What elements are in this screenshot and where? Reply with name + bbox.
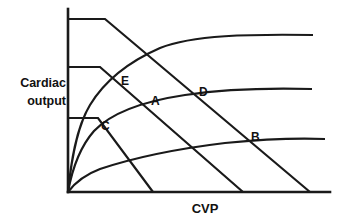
point-label-B: B — [251, 130, 260, 144]
cardiac-output-cvp-plot: E A D C B CVP — [0, 0, 346, 221]
point-label-C: C — [101, 119, 110, 133]
figure-canvas: Cardiac output E A D C B CVP — [0, 0, 346, 221]
cardiac-function-curve-low — [68, 139, 325, 192]
x-axis-label: CVP — [192, 201, 219, 216]
point-label-D: D — [199, 85, 208, 99]
point-label-E: E — [121, 74, 129, 88]
venous-return-curve-high-volume — [68, 19, 310, 192]
point-label-A: A — [151, 94, 160, 108]
